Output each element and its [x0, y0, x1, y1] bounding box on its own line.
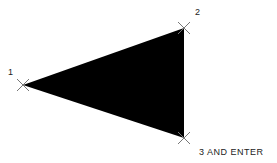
vertex-label-3: 3 AND ENTER: [199, 147, 264, 157]
vertex-label-1: 1: [8, 67, 14, 77]
vertex-label-2: 2: [195, 7, 201, 17]
triangle-canvas: [0, 0, 277, 163]
filled-triangle: [23, 28, 184, 138]
